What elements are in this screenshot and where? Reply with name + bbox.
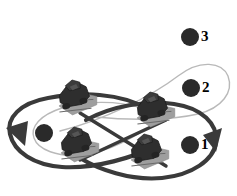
legend-marker-group [181, 28, 200, 154]
marker-left-center-dot [35, 124, 53, 142]
legend-label-2: 2 [202, 80, 210, 95]
robot-upper-left[interactable] [53, 75, 100, 118]
figure-canvas: 1 2 3 [0, 0, 237, 196]
legend-label-1: 1 [201, 137, 209, 152]
robot-lower-left[interactable] [55, 122, 102, 165]
legend-marker-1-dot [181, 136, 199, 154]
legend-marker-2-dot [182, 79, 200, 97]
legend-marker-3-dot [181, 28, 199, 46]
robot-upper-right[interactable] [131, 87, 178, 130]
legend-label-3: 3 [201, 29, 209, 44]
